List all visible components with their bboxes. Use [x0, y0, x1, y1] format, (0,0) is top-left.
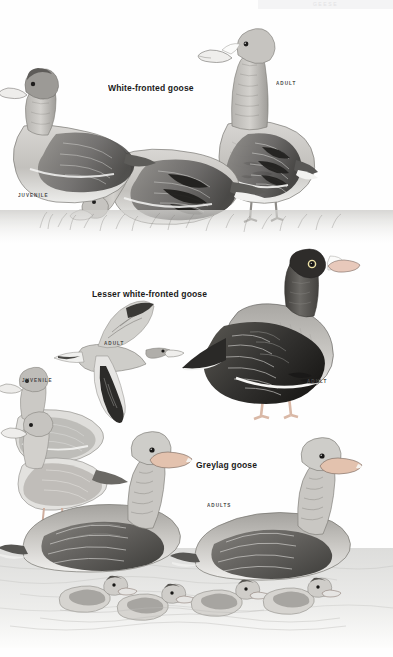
- bird-adult-lesser-standing: [182, 249, 360, 419]
- age-label-adult-2: ADULT: [104, 340, 124, 346]
- running-header: GEESE: [258, 0, 393, 9]
- ground-grass: [0, 210, 393, 244]
- bird-adult-lesser-flying: [54, 301, 184, 423]
- field-guide-plate: GEESE: [0, 0, 393, 657]
- age-label-adults: ADULTS: [207, 502, 231, 508]
- age-label-juvenile-1: JUVENILE: [18, 192, 49, 198]
- species-label-white-fronted-goose: White-fronted goose: [108, 82, 194, 93]
- age-label-adult-1: ADULT: [276, 80, 296, 86]
- species-label-greylag-goose: Greylag goose: [196, 459, 257, 470]
- age-label-juvenile-2: JUVENILE: [22, 377, 53, 383]
- species-label-lesser-white-fronted-goose: Lesser white-fronted goose: [92, 288, 207, 299]
- age-label-adult-3: ADULT: [307, 378, 327, 384]
- illustration-white-fronted-goose: [0, 14, 393, 244]
- illustration-greylag-goose: [0, 408, 393, 648]
